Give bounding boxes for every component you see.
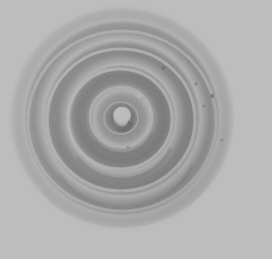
concentric-terraces	[0, 0, 272, 259]
shell-photograph	[0, 0, 272, 259]
apex-core	[115, 108, 127, 120]
directional-lighting	[0, 0, 272, 259]
image-canvas	[0, 0, 272, 259]
